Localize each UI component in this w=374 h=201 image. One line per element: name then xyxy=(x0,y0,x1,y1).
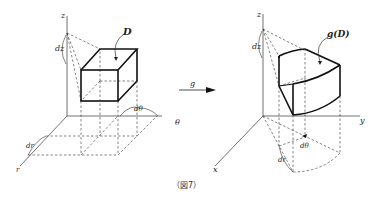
dtheta-marker xyxy=(302,134,307,138)
region-gD-label: g(D) xyxy=(327,29,350,39)
cube-D xyxy=(81,49,137,101)
dz-projection-right xyxy=(263,29,305,86)
D-pointer-arrow xyxy=(115,34,124,58)
region-D-label: D xyxy=(122,26,132,37)
x-axis-label: x xyxy=(213,165,218,174)
theta-axis-label: θ xyxy=(175,118,180,127)
y-axis-label: y xyxy=(359,116,365,125)
dtheta-label-right: dθ xyxy=(300,142,309,150)
r-axis-label: r xyxy=(16,166,20,174)
dz-label-left: dz xyxy=(55,44,65,53)
left-diagram xyxy=(20,16,162,166)
x-axis xyxy=(215,116,263,166)
z-axis-label-right: z xyxy=(256,10,262,19)
dr-label-right: dr xyxy=(278,156,286,164)
dr-label-left: dr xyxy=(26,142,34,150)
dtheta-label-left: dθ xyxy=(134,105,143,113)
mapping-label-g: g xyxy=(190,79,195,88)
figure-7: z dz D θ dθ dr r g xyxy=(0,0,374,201)
dz-label-right: dz xyxy=(252,42,262,51)
mapping-arrow-g xyxy=(179,87,216,93)
base-parallelogram xyxy=(28,116,157,155)
r-axis xyxy=(20,116,67,166)
gD-drop-lines xyxy=(263,78,340,172)
cube-hidden-edges xyxy=(81,49,137,101)
figure-caption: （図7） xyxy=(172,181,201,190)
region-gD xyxy=(279,49,340,115)
z-axis-label-left: z xyxy=(60,11,66,20)
